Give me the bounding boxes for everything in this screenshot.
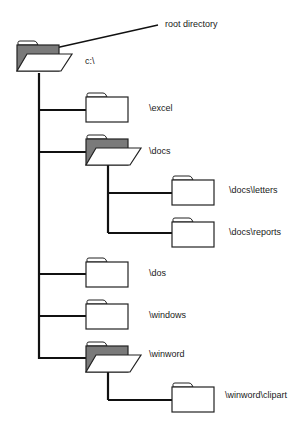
docs-letters-label[interactable]: \docs\letters — [229, 185, 278, 195]
winword-clipart-label[interactable]: \winword\clipart — [225, 390, 288, 400]
dos-label[interactable]: \dos — [149, 268, 167, 278]
winword-label[interactable]: \winword — [149, 349, 185, 359]
root-label[interactable]: c:\ — [85, 56, 95, 66]
windows-label[interactable]: \windows — [149, 310, 187, 320]
docs-reports-label[interactable]: \docs\reports — [229, 227, 282, 237]
docs-open-folder-icon[interactable] — [86, 135, 141, 165]
docs-reports-folder-icon[interactable] — [172, 218, 214, 247]
docs-letters-folder-icon[interactable] — [172, 176, 214, 205]
windows-folder-icon[interactable] — [86, 300, 128, 329]
excel-label[interactable]: \excel — [149, 103, 173, 113]
root-annotation-label: root directory — [165, 19, 218, 29]
docs-label[interactable]: \docs — [149, 146, 171, 156]
directory-tree-diagram: root directory c:\ \excel \docs \docs\le… — [0, 0, 305, 429]
winword-open-folder-icon[interactable] — [86, 342, 141, 372]
excel-folder-icon[interactable] — [86, 93, 128, 122]
dos-folder-icon[interactable] — [86, 258, 128, 287]
winword-clipart-folder-icon[interactable] — [172, 383, 214, 412]
